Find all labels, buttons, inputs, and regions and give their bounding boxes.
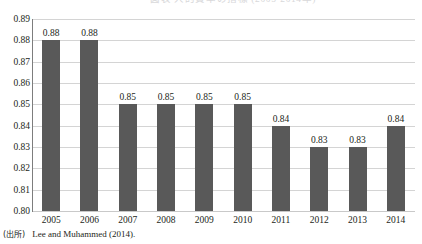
x-axis-tick-label: 2013: [338, 214, 376, 226]
bar[interactable]: [310, 147, 328, 211]
bar[interactable]: [349, 147, 367, 211]
chart-page: 図表 人的資本の指標 (2005-2014年) 0.890.880.870.86…: [0, 0, 422, 244]
x-axis-tick-label: 2010: [224, 214, 262, 226]
bar[interactable]: [80, 40, 98, 211]
bar[interactable]: [119, 104, 137, 211]
y-axis-tick-label: 0.85: [2, 99, 30, 109]
x-axis-labels: 2005200620072008200920102011201220132014: [32, 214, 415, 228]
bar-slot: 0.85: [109, 19, 147, 211]
bar-slot: 0.85: [224, 19, 262, 211]
x-axis-tick-label: 2009: [185, 214, 223, 226]
bar-value-label: 0.85: [119, 92, 136, 102]
y-axis-tick-label: 0.83: [2, 142, 30, 152]
bar-value-label: 0.85: [196, 92, 213, 102]
bar[interactable]: [42, 40, 60, 211]
y-axis-tick-label: 0.87: [2, 57, 30, 67]
y-axis-tick-label: 0.84: [2, 121, 30, 131]
x-axis-tick-label: 2008: [147, 214, 185, 226]
bar-value-label: 0.83: [349, 135, 366, 145]
bar-series: 0.880.880.850.850.850.850.840.830.830.84: [32, 19, 415, 211]
bar-slot: 0.88: [32, 19, 70, 211]
source-text: Lee and Muhammed (2014).: [32, 229, 135, 239]
bar-slot: 0.85: [147, 19, 185, 211]
bar-chart: 0.890.880.870.860.850.840.830.820.810.80…: [0, 7, 422, 213]
bar-value-label: 0.88: [81, 28, 98, 38]
bar-slot: 0.84: [262, 19, 300, 211]
bar[interactable]: [387, 126, 405, 211]
y-axis-tick-label: 0.88: [2, 35, 30, 45]
plot-area: 0.880.880.850.850.850.850.840.830.830.84: [32, 19, 415, 211]
bar[interactable]: [195, 104, 213, 211]
x-axis-tick-label: 2012: [300, 214, 338, 226]
bar[interactable]: [234, 104, 252, 211]
y-axis-line: [32, 19, 33, 212]
x-axis-tick-label: 2011: [262, 214, 300, 226]
y-axis-tick-label: 0.80: [2, 206, 30, 216]
y-axis-tick-label: 0.82: [2, 163, 30, 173]
chart-title-cropped: 図表 人的資本の指標 (2005-2014年): [0, 0, 422, 7]
bar-slot: 0.85: [185, 19, 223, 211]
x-axis-tick-label: 2014: [377, 214, 415, 226]
bar-slot: 0.83: [300, 19, 338, 211]
y-axis-tick-label: 0.89: [2, 14, 30, 24]
bar-value-label: 0.88: [43, 28, 60, 38]
bar[interactable]: [157, 104, 175, 211]
bar-slot: 0.83: [338, 19, 376, 211]
bar-value-label: 0.84: [273, 114, 290, 124]
chart-title-text: 図表 人的資本の指標 (2005-2014年): [150, 0, 316, 5]
bar-value-label: 0.83: [311, 135, 328, 145]
bar-value-label: 0.85: [234, 92, 251, 102]
bar-slot: 0.84: [377, 19, 415, 211]
x-axis-tick-label: 2006: [70, 214, 108, 226]
source-tag: (出所): [3, 230, 25, 239]
source-note: (出所)Lee and Muhammed (2014).: [3, 228, 135, 241]
y-axis-tick-label: 0.81: [2, 185, 30, 195]
bar-value-label: 0.84: [388, 114, 405, 124]
gridline: [32, 211, 415, 212]
x-axis-tick-label: 2007: [109, 214, 147, 226]
bar-slot: 0.88: [70, 19, 108, 211]
y-axis-tick-label: 0.86: [2, 78, 30, 88]
bar[interactable]: [272, 126, 290, 211]
y-axis-labels: 0.890.880.870.860.850.840.830.820.810.80: [0, 19, 30, 212]
bar-value-label: 0.85: [158, 92, 175, 102]
x-axis-tick-label: 2005: [32, 214, 70, 226]
